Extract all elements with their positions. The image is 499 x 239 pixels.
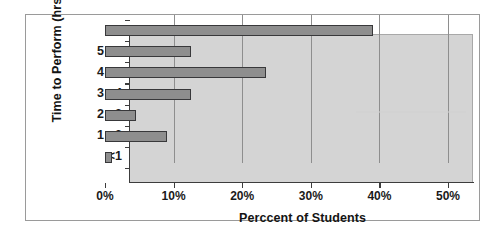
bar-2 - 3 — [105, 110, 136, 121]
y-tick-label-<1: <1 — [62, 149, 122, 163]
x-tick-40% — [379, 183, 380, 188]
y-tick-2 - 3 — [125, 105, 130, 106]
y-tick-baseline — [125, 168, 130, 169]
x-tick-30% — [311, 183, 312, 188]
x-tick-label-20%: 20% — [212, 189, 272, 203]
scan-speck — [356, 111, 466, 113]
x-axis-title: Perccent of Students — [130, 211, 475, 225]
x-tick-50% — [448, 183, 449, 188]
bar-5 - 6 — [105, 46, 191, 57]
y-tick->6 — [125, 20, 130, 21]
y-tick-5 - 6 — [125, 41, 130, 42]
x-tick-label-10%: 10% — [144, 189, 204, 203]
gridline-20% — [242, 15, 243, 163]
gridline-50% — [448, 15, 449, 163]
x-tick-label-40%: 40% — [349, 189, 409, 203]
x-tick-label-50%: 50% — [418, 189, 478, 203]
bar-4 - 5 — [105, 67, 266, 78]
x-tick-label-0%: 0% — [75, 189, 135, 203]
gridline-30% — [311, 15, 312, 163]
x-axis-line — [129, 182, 474, 183]
x-tick-20% — [242, 183, 243, 188]
x-tick-10% — [174, 183, 175, 188]
bar-3 - 4 — [105, 89, 191, 100]
gridline-40% — [379, 15, 380, 163]
chart-frame: Time to Perform (hrs) 0%10%20%30%40%50% … — [25, 14, 480, 221]
bar-<1 — [105, 152, 112, 163]
y-tick-<1 — [125, 147, 130, 148]
bar->6 — [105, 25, 373, 36]
y-tick-3 - 4 — [125, 83, 130, 84]
chart-figure: Time to Perform (hrs) 0%10%20%30%40%50% … — [0, 0, 499, 239]
x-tick-label-30%: 30% — [281, 189, 341, 203]
y-tick-1 - 2 — [125, 126, 130, 127]
bar-1 - 2 — [105, 131, 167, 142]
y-tick-4 - 5 — [125, 62, 130, 63]
x-tick-0% — [105, 183, 106, 188]
